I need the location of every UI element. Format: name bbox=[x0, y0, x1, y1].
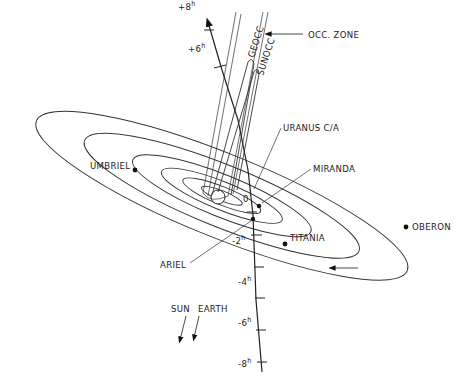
miranda-dot bbox=[257, 204, 261, 208]
ariel-dot bbox=[251, 217, 255, 221]
titania-dot bbox=[283, 242, 288, 247]
uranus-encounter-diagram: +8h +6h 0 -2h -4h -6h -8h GEOCC SUNOCC O… bbox=[0, 0, 470, 387]
miranda-label: MIRANDA bbox=[313, 163, 355, 174]
svg-text:-4h: -4h bbox=[238, 275, 251, 287]
ariel-label: ARIEL bbox=[160, 259, 186, 270]
earth-label: EARTH bbox=[198, 303, 228, 314]
svg-text:-6h: -6h bbox=[238, 316, 251, 328]
uranus-ca-label: URANUS C/A bbox=[283, 122, 339, 133]
svg-text:-8h: -8h bbox=[238, 357, 251, 369]
diagram-svg: +8h +6h 0 -2h -4h -6h -8h GEOCC SUNOCC O… bbox=[0, 0, 470, 387]
oberon-label: OBERON bbox=[412, 221, 451, 232]
sun-direction-arrow bbox=[180, 316, 186, 340]
ariel-pointer bbox=[190, 221, 251, 263]
svg-text:-2h: -2h bbox=[232, 234, 245, 246]
umbriel-label: UMBRIEL bbox=[90, 160, 130, 171]
spacecraft-trajectory bbox=[256, 300, 262, 372]
svg-text:+6h: +6h bbox=[188, 42, 206, 54]
umbriel-dot bbox=[133, 168, 138, 173]
titania-label: TITANIA bbox=[289, 232, 325, 243]
uranus-ca-pointer bbox=[254, 128, 281, 189]
oberon-dot bbox=[404, 225, 409, 230]
earth-direction-arrow bbox=[194, 316, 199, 338]
svg-text:+8h: +8h bbox=[178, 0, 196, 12]
sun-label: SUN bbox=[171, 303, 190, 314]
svg-text:0: 0 bbox=[243, 193, 249, 204]
occ-zone-label: OCC. ZONE bbox=[308, 29, 359, 40]
